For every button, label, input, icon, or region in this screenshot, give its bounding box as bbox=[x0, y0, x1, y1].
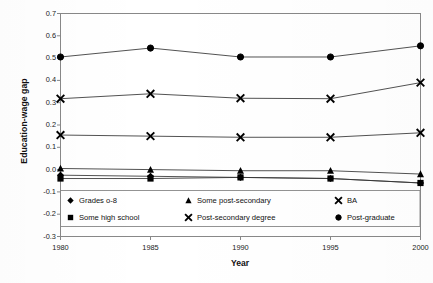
legend-label: Some post-secondary bbox=[197, 197, 271, 205]
data-point-square bbox=[68, 215, 73, 220]
legend-label: Post-secondary degree bbox=[197, 214, 276, 222]
data-point-square bbox=[57, 175, 63, 181]
legend-entry: Grades o-8 bbox=[66, 196, 184, 205]
circle-marker-icon bbox=[334, 213, 343, 222]
data-point-diamond bbox=[67, 197, 73, 203]
diamond-marker-icon bbox=[66, 196, 75, 205]
data-point-circle bbox=[327, 54, 333, 60]
series-ba bbox=[57, 79, 425, 103]
data-point-circle bbox=[336, 215, 341, 220]
data-point-circle bbox=[237, 54, 243, 60]
triangle-marker-icon bbox=[184, 196, 193, 205]
data-point-triangle bbox=[185, 197, 191, 203]
x-axis-title: Year bbox=[60, 258, 420, 268]
legend-label: BA bbox=[347, 197, 357, 205]
legend-entry: Post-secondary degree bbox=[184, 213, 334, 222]
legend-entry: Post-graduate bbox=[334, 213, 406, 222]
legend-label: Some high school bbox=[79, 214, 139, 222]
legend-label: Grades o-8 bbox=[79, 197, 117, 205]
data-point-square bbox=[147, 175, 153, 181]
square-marker-icon bbox=[66, 213, 75, 222]
chart-legend: Grades o-8Some post-secondaryBASome high… bbox=[66, 192, 406, 226]
series-line bbox=[61, 83, 421, 99]
cross-marker-icon bbox=[184, 213, 193, 222]
series-post-secondary-degree bbox=[57, 129, 425, 141]
series-post-graduate bbox=[57, 43, 423, 60]
data-point-circle bbox=[57, 54, 63, 60]
legend-entry: Some post-secondary bbox=[184, 196, 334, 205]
data-point-square bbox=[417, 180, 423, 186]
legend-entry: Some high school bbox=[66, 213, 184, 222]
legend-entry: BA bbox=[334, 196, 406, 205]
legend-label: Post-graduate bbox=[347, 214, 395, 222]
plot-area bbox=[0, 0, 433, 283]
data-point-circle bbox=[417, 43, 423, 49]
chart-figure: Education-wage gap 0.70.60.50.40.30.20.1… bbox=[0, 0, 433, 283]
cross-marker-icon bbox=[334, 196, 343, 205]
data-point-square bbox=[237, 174, 243, 180]
data-point-circle bbox=[147, 45, 153, 51]
data-point-square bbox=[327, 175, 333, 181]
